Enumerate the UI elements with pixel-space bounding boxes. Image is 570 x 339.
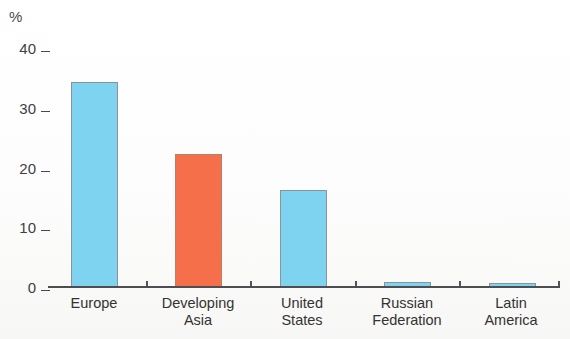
y-axis-unit-label: % <box>9 8 23 25</box>
x-label-developing-asia: Developing Asia <box>146 295 250 329</box>
x-label-europe-line1: Europe <box>71 295 118 311</box>
x-label-europe: Europe <box>42 295 146 312</box>
x-label-developing-asia-line2: Asia <box>146 312 250 329</box>
y-tick-30: 30 <box>4 98 50 118</box>
y-tick-10-dash <box>41 230 50 232</box>
x-label-latin-america-line1: Latin <box>495 295 526 311</box>
bar-developing-asia <box>175 154 222 287</box>
x-label-russian-federation: Russian Federation <box>355 295 459 329</box>
x-axis-separator-3 <box>355 281 357 286</box>
x-axis-separator-2 <box>250 281 252 286</box>
y-tick-10: 10 <box>4 217 50 237</box>
x-label-russian-federation-line2: Federation <box>355 312 459 329</box>
bar-chart: % 40 30 20 10 0 Europe Developing Asia U… <box>0 0 570 339</box>
x-label-developing-asia-line1: Developing <box>162 295 235 311</box>
x-label-latin-america: Latin America <box>459 295 563 329</box>
y-tick-40: 40 <box>4 38 50 58</box>
bar-united-states <box>280 190 327 287</box>
x-label-united-states-line1: United <box>281 295 323 311</box>
x-label-russian-federation-line1: Russian <box>381 295 433 311</box>
y-tick-0-dash <box>41 290 50 292</box>
x-axis-line <box>48 286 560 288</box>
x-label-latin-america-line2: America <box>459 312 563 329</box>
y-tick-40-label: 40 <box>19 40 36 57</box>
x-label-united-states: United States <box>250 295 354 329</box>
bar-europe <box>71 82 118 287</box>
y-tick-20-dash <box>41 171 50 173</box>
y-tick-20: 20 <box>4 158 50 178</box>
y-tick-0-label: 0 <box>28 279 36 296</box>
x-label-united-states-line2: States <box>250 312 354 329</box>
y-tick-10-label: 10 <box>19 219 36 236</box>
y-tick-30-label: 30 <box>19 100 36 117</box>
y-tick-0: 0 <box>4 277 50 297</box>
y-tick-40-dash <box>41 51 50 53</box>
x-axis-separator-4 <box>459 281 461 286</box>
y-tick-20-label: 20 <box>19 160 36 177</box>
x-axis-separator-1 <box>146 281 148 286</box>
x-axis-separator-5 <box>558 281 560 286</box>
y-tick-30-dash <box>41 111 50 113</box>
